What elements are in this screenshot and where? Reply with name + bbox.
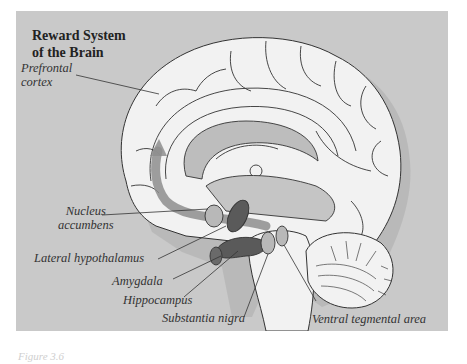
label-line: Prefrontal bbox=[21, 61, 72, 75]
label-line: Nucleus bbox=[58, 204, 114, 218]
substantia-nigra bbox=[261, 232, 275, 254]
label-substantia-nigra: Substantia nigra bbox=[162, 311, 245, 325]
diagram-panel: Reward System of the Brain Prefrontal co… bbox=[16, 11, 448, 331]
label-amygdala: Amygdala bbox=[112, 274, 163, 288]
nucleus-accumbens bbox=[205, 205, 223, 227]
diagram-title: Reward System of the Brain bbox=[32, 27, 126, 61]
label-nucleus-accumbens: Nucleus accumbens bbox=[58, 204, 114, 232]
ventral-tegmental-area bbox=[276, 226, 288, 246]
label-hippocampus: Hippocampus bbox=[123, 293, 192, 307]
title-line-1: Reward System bbox=[32, 27, 126, 44]
cerebellum bbox=[306, 233, 393, 308]
label-ventral-tegmental-area: Ventral tegmental area bbox=[312, 312, 426, 326]
label-line: accumbens bbox=[58, 218, 114, 232]
title-line-2: of the Brain bbox=[32, 44, 126, 61]
label-line: cortex bbox=[21, 75, 72, 89]
label-lateral-hypothalamus: Lateral hypothalamus bbox=[34, 251, 144, 265]
figure-caption: Figure 3.6 bbox=[18, 350, 64, 362]
label-prefrontal-cortex: Prefrontal cortex bbox=[21, 61, 72, 89]
